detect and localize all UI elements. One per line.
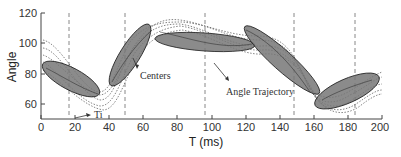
ti-label: Ti [94,109,103,120]
x-tick-160: 160 [305,121,323,133]
angle-trajectory-chart: 60 80 100 120 0 20 40 60 80 100 120 140 … [0,0,401,157]
annotation-ti: Ti [75,109,103,120]
x-tick-20: 20 [69,121,81,133]
y-tick-80: 80 [25,68,37,80]
centers-label: Centers [140,70,171,81]
x-tick-200: 200 [371,121,389,133]
y-tick-60: 60 [25,98,37,110]
x-tick-140: 140 [271,121,289,133]
x-tick-40: 40 [103,121,115,133]
y-tick-100: 100 [19,37,37,49]
y-tick-120: 120 [19,7,37,19]
x-tick-100: 100 [203,121,221,133]
x-axis-label: T (ms) [189,135,223,149]
angle-trajectory-label: Angle Trajectory [226,86,294,97]
x-tick-120: 120 [237,121,255,133]
annotation-centers: Centers [133,58,171,81]
x-tick-60: 60 [137,121,149,133]
x-tick-80: 80 [171,121,183,133]
x-tick-0: 0 [38,121,44,133]
segment-boundaries [69,13,355,118]
gaussian-ellipses [38,19,384,116]
y-axis-label: Angle [5,51,19,82]
x-tick-180: 180 [339,121,357,133]
